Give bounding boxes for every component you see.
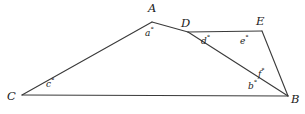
vertex-label-D: D <box>181 18 190 30</box>
vertex-label-A: A <box>148 3 157 15</box>
angle-label-d: d° <box>201 37 210 46</box>
angle-label-b: b° <box>248 82 257 91</box>
angle-label-f: f° <box>258 70 265 79</box>
segment-EB <box>262 31 288 96</box>
vertex-label-C: C <box>7 91 16 103</box>
geometry-figure: A D E B C a° d° e° f° b° c° <box>0 0 305 114</box>
segment-DE <box>188 31 262 32</box>
vertex-label-B: B <box>291 94 300 106</box>
segment-CA <box>22 22 152 95</box>
segment-CB <box>22 95 288 96</box>
vertex-label-E: E <box>256 16 265 28</box>
angle-label-a: a° <box>145 29 154 38</box>
angle-label-e: e° <box>240 37 249 46</box>
angle-label-c: c° <box>46 80 55 89</box>
